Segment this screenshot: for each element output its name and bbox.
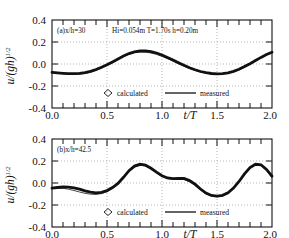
panel-b-annotation: (b)x/h=42.5: [57, 146, 92, 154]
panel-b-y-tick-labels: 0.4 0.2 0.0 -0.2 -0.4: [29, 133, 47, 233]
x-tick-label: 2.0: [263, 228, 277, 238]
x-tick-label: 0.0: [45, 228, 59, 238]
y-tick-label: -0.4: [29, 102, 47, 114]
panel-a-y-tick-labels: 0.4 0.2 0.0 -0.2 -0.4: [29, 14, 47, 114]
x-tick-label: 1.0: [155, 228, 169, 238]
y-tick-label: -0.4: [29, 221, 47, 233]
panel-a-station: x/h=30: [65, 27, 86, 35]
x-tick-label: 1.5: [210, 228, 224, 238]
panel-a-annotation: (a)x/h=30: [57, 27, 86, 35]
y-tick-label: 0.0: [32, 58, 46, 70]
x-tick-label: 0.5: [100, 228, 114, 238]
y-tick-label: -0.2: [29, 199, 46, 211]
x-tick-label: 1.0: [155, 109, 169, 119]
x-tick-label: 0.0: [45, 109, 59, 119]
x-tick-label: 2.0: [263, 109, 277, 119]
panel-a-legend-calculated-label: calculated: [117, 89, 148, 98]
panel-b-svg: 0.4 0.2 0.0 -0.2 -0.4 u/(gh)1/2: [0, 119, 289, 238]
svg-text:u/(gh)1/2: u/(gh)1/2: [4, 47, 17, 85]
y-axis-label: u/(gh)1/2: [4, 47, 17, 85]
x-tick-label: 1.5: [210, 109, 224, 119]
panel-b-x-tick-labels: 0.0 0.5 1.0 1.5 2.0: [45, 228, 277, 238]
panel-b-legend-calculated-label: calculated: [117, 208, 148, 217]
y-tick-label: 0.0: [32, 177, 46, 189]
panel-b-legend-measured-label: measured: [200, 208, 229, 217]
y-axis-label-main: u/(gh): [4, 56, 17, 84]
figure-container: 0.4 0.2 0.0 -0.2 -0.4 u/(gh)1/2: [0, 0, 289, 238]
y-tick-label: 0.2: [32, 36, 46, 48]
panel-a-x-tick-labels: 0.0 0.5 1.0 1.5 2.0: [45, 109, 277, 119]
y-tick-label: 0.4: [32, 14, 46, 26]
panel-b-x-axis-label: t/T: [184, 228, 198, 238]
y-tick-label: 0.4: [32, 133, 46, 145]
y-axis-label-exponent: 1/2: [4, 166, 12, 175]
x-tick-label: 0.5: [100, 109, 114, 119]
chart-panel-b: 0.4 0.2 0.0 -0.2 -0.4 u/(gh)1/2: [0, 119, 289, 238]
svg-text:u/(gh)1/2: u/(gh)1/2: [4, 166, 17, 204]
y-tick-label: -0.2: [29, 80, 46, 92]
y-axis-label: u/(gh)1/2: [4, 166, 17, 204]
panel-a-svg: 0.4 0.2 0.0 -0.2 -0.4 u/(gh)1/2: [0, 0, 289, 119]
panel-b-station: x/h=42.5: [65, 146, 91, 154]
panel-a-legend-measured-label: measured: [200, 89, 229, 98]
panel-a-x-axis-label: t/T: [184, 109, 198, 119]
y-axis-label-main: u/(gh): [4, 175, 17, 203]
y-tick-label: 0.2: [32, 155, 46, 167]
panel-a-conditions: Hi=0.054m T=1.70s h=0.20m: [112, 27, 199, 35]
y-axis-label-exponent: 1/2: [4, 47, 12, 56]
chart-panel-a: 0.4 0.2 0.0 -0.2 -0.4 u/(gh)1/2: [0, 0, 289, 119]
